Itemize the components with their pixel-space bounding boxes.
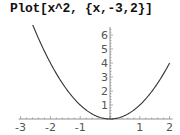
y-tick-label: 5	[101, 43, 108, 56]
curve-x-squared	[21, 0, 170, 119]
tick-labels: -3-2-112123456	[15, 29, 173, 134]
y-tick-label: 1	[101, 99, 108, 112]
plot-area: -3-2-112123456	[0, 0, 180, 135]
x-tick-label: 2	[166, 121, 173, 134]
x-tick-label: -3	[15, 121, 26, 134]
y-tick-label: 2	[101, 85, 108, 98]
x-tick-label: 1	[136, 121, 143, 134]
x-tick-label: -1	[75, 121, 86, 134]
x-tick-label: -2	[45, 121, 56, 134]
y-tick-label: 4	[101, 57, 108, 70]
y-tick-label: 6	[101, 29, 108, 42]
y-tick-label: 3	[101, 71, 108, 84]
axes	[19, 27, 173, 119]
